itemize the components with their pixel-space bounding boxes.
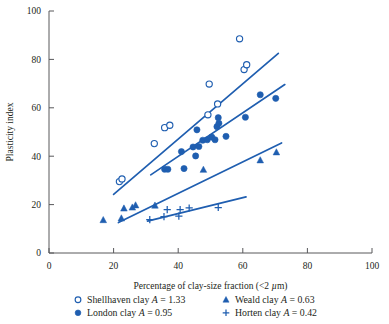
data-point [193, 153, 199, 159]
data-point [216, 120, 222, 126]
y-tick-label: 20 [32, 200, 42, 210]
series-weald-clay [100, 149, 280, 223]
data-point [118, 215, 125, 221]
data-point [132, 202, 139, 208]
data-point [205, 112, 211, 118]
data-point [223, 133, 229, 139]
y-tick-label: 100 [27, 6, 42, 16]
legend-marker-open-circle-icon [75, 297, 81, 303]
x-tick-label: 60 [238, 261, 248, 271]
data-point [236, 36, 242, 42]
y-tick-label: 80 [32, 55, 42, 65]
data-point [196, 143, 202, 149]
data-point [178, 149, 184, 155]
data-point [206, 81, 212, 87]
legend-label: Shellhaven clay A = 1.33 [87, 294, 185, 305]
legend-marker-filled-triangle-icon [223, 296, 229, 302]
data-point [257, 157, 264, 163]
x-tick-label: 40 [173, 261, 183, 271]
x-tick-label: 0 [47, 261, 52, 271]
trend-lines [114, 53, 285, 222]
data-point [164, 206, 171, 213]
y-tick-label: 40 [32, 152, 42, 162]
x-axis-title: Percentage of clay-size fraction (<2 µm) [133, 281, 287, 292]
legend-item-shellhaven-clay[interactable]: Shellhaven clay A = 1.33 [75, 294, 185, 305]
data-point [273, 95, 279, 101]
legend: Shellhaven clay A = 1.33London clay A = … [75, 294, 317, 318]
data-point [215, 101, 221, 107]
trend-line-shellhaven-clay [114, 53, 279, 194]
data-point [212, 137, 218, 143]
data-point [151, 141, 157, 147]
data-point [190, 144, 196, 150]
data-point [257, 92, 263, 98]
data-point [242, 114, 248, 120]
axes [49, 11, 372, 253]
data-point [244, 62, 250, 68]
legend-label: Horten clay A = 0.42 [235, 307, 317, 318]
legend-marker-plus-icon [223, 309, 230, 316]
data-point [181, 165, 187, 171]
y-tick-label: 0 [36, 248, 41, 258]
y-axis-title: Plasticity index [5, 102, 15, 161]
axis-spine [49, 11, 372, 253]
figure-container: 020406080100020406080100 Percentage of c… [0, 0, 389, 324]
series-shellhaven-clay [116, 36, 249, 185]
legend-marker-filled-circle-icon [75, 310, 81, 316]
data-point [119, 176, 125, 182]
data-point [215, 115, 221, 121]
data-point [273, 149, 280, 155]
legend-item-weald-clay[interactable]: Weald clay A = 0.63 [223, 294, 315, 305]
legend-item-horten-clay[interactable]: Horten clay A = 0.42 [223, 307, 317, 318]
legend-label: London clay A = 0.95 [87, 307, 172, 318]
data-point [160, 213, 167, 220]
data-point [194, 127, 200, 133]
x-tick-label: 100 [365, 261, 380, 271]
data-point [100, 216, 107, 222]
scatter-plot: 020406080100020406080100 Percentage of c… [0, 0, 389, 324]
y-tick-label: 60 [32, 103, 42, 113]
data-point [146, 216, 153, 223]
legend-label: Weald clay A = 0.63 [235, 294, 315, 305]
data-point [121, 205, 128, 211]
data-point [167, 122, 173, 128]
axis-ticks [49, 11, 372, 253]
data-point [165, 166, 171, 172]
x-tick-label: 80 [303, 261, 313, 271]
legend-item-london-clay[interactable]: London clay A = 0.95 [75, 307, 172, 318]
data-point [200, 166, 207, 172]
trend-line-weald-clay [118, 143, 281, 223]
x-tick-label: 20 [109, 261, 119, 271]
